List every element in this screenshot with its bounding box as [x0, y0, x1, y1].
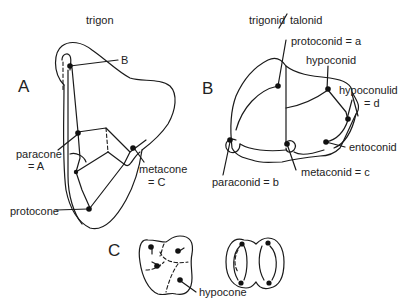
protocone-dot — [86, 206, 92, 212]
entoconid-dot — [323, 139, 329, 145]
label-b: B — [121, 54, 128, 66]
panel-c-cusp-dot — [266, 280, 271, 285]
protoconid-dot — [275, 83, 281, 89]
label-protocone: protocone — [10, 205, 59, 217]
label-metacone-eq: = C — [148, 176, 165, 188]
paracone-dot — [75, 130, 81, 136]
tooth-cusp-diagram: trigon A B paracone = A metacone = C pro… — [0, 0, 401, 304]
label-protoconid: protoconid = a — [291, 35, 361, 47]
label-entoconid: entoconid — [349, 141, 397, 153]
panel-a-minor-dot — [74, 170, 78, 174]
label-hypoconulid-eq: = d — [364, 97, 380, 109]
label-hypocone: hypocone — [199, 286, 247, 298]
panel-b-letter: B — [202, 80, 213, 98]
panel-c-cusp-dot — [148, 244, 154, 250]
panel-c-cusp-dot — [175, 248, 181, 254]
paraconid-dot — [227, 137, 233, 143]
panel-b-title-trigonid: trigonid — [249, 14, 285, 26]
panel-c-left-tooth-outline — [139, 236, 192, 295]
panel-a-letter: A — [18, 78, 29, 96]
label-paraconid: paraconid = b — [212, 176, 279, 188]
label-paracone: paracone — [16, 148, 62, 160]
panel-c-cusp-dot — [154, 263, 160, 269]
metaconid-dot — [284, 141, 290, 147]
panel-b-title-talonid: talonid — [290, 14, 322, 26]
panel-c-cusp-dot — [238, 280, 243, 285]
panel-c-cusp-dot — [265, 240, 270, 245]
leader-protoconid — [278, 40, 286, 86]
cusp-b-dot — [67, 63, 73, 69]
label-metaconid: metaconid = c — [301, 166, 370, 178]
label-hypoconulid: hypoconulid — [339, 84, 398, 96]
panel-a-title: trigon — [86, 14, 114, 26]
panel-b-crown-outline — [231, 58, 359, 162]
label-hypoconid: hypoconid — [306, 54, 356, 66]
hypoconulid-dot — [345, 116, 351, 122]
label-metacone: metacone — [139, 163, 187, 175]
panel-a-crown-outline — [56, 43, 176, 150]
leader-protocone — [56, 209, 88, 210]
panel-c-letter: C — [108, 242, 120, 260]
metacone-dot — [130, 145, 136, 151]
leader-hypoconulid — [347, 100, 352, 119]
label-paracone-eq: = A — [28, 160, 44, 172]
panel-c-cusp-dot — [239, 241, 244, 246]
hypoconid-dot — [325, 86, 331, 92]
panel-a-drawing — [56, 43, 176, 229]
